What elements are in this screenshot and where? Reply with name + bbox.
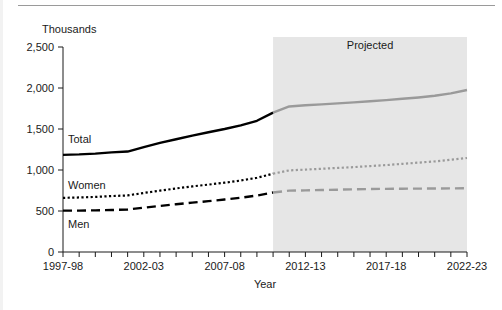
x-tick-label: 1997-98 — [43, 260, 83, 272]
series-label-men: Men — [68, 218, 89, 230]
y-tick-label: 1,500 — [26, 123, 54, 135]
x-tick-label: 2017-18 — [366, 260, 406, 272]
projected-band — [273, 37, 467, 252]
chart-page: Thousands 05001,0001,5002,0002,500 1997-… — [0, 0, 502, 310]
y-tick-label: 500 — [36, 205, 54, 217]
series-label-total: Total — [68, 133, 91, 145]
series-line-total-historical — [63, 113, 273, 155]
y-tick-label: 0 — [48, 246, 54, 258]
projected-label: Projected — [347, 39, 393, 51]
y-tick-label: 1,000 — [26, 164, 54, 176]
x-tick-label: 2007-08 — [204, 260, 244, 272]
y-axis-units-label: Thousands — [42, 23, 97, 35]
x-tick-label: 2002-03 — [124, 260, 164, 272]
series-line-men-historical — [63, 193, 273, 211]
x-axis-ticks: 1997-982002-032007-082012-132017-182022-… — [43, 252, 487, 272]
x-axis-title: Year — [254, 278, 277, 290]
x-tick-label: 2022-23 — [447, 260, 487, 272]
series-label-women: Women — [68, 179, 106, 191]
y-tick-label: 2,500 — [26, 41, 54, 53]
line-chart: Thousands 05001,0001,5002,0002,500 1997-… — [0, 0, 502, 310]
x-tick-label: 2012-13 — [285, 260, 325, 272]
y-tick-label: 2,000 — [26, 82, 54, 94]
y-axis-ticks: 05001,0001,5002,0002,500 — [26, 41, 63, 258]
